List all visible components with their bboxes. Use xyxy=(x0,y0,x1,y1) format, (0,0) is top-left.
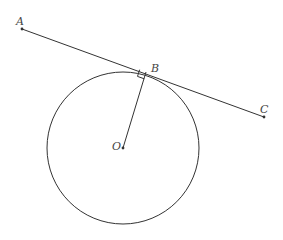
label-a: A xyxy=(15,15,24,28)
geometry-diagram: A B C O xyxy=(0,0,283,240)
point-c xyxy=(263,116,266,119)
point-o xyxy=(122,147,125,150)
tangent-line-ac xyxy=(22,29,264,117)
label-c: C xyxy=(260,103,269,116)
label-o: O xyxy=(112,140,121,153)
radius-ob xyxy=(123,72,146,148)
point-a xyxy=(21,28,24,31)
label-b: B xyxy=(150,62,159,75)
